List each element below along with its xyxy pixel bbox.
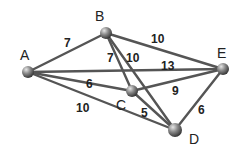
edge-weight-a-d: 10 xyxy=(76,101,90,115)
edge-a-e xyxy=(28,69,223,72)
node-e-sphere-icon xyxy=(217,63,229,75)
node-b-sphere-icon xyxy=(100,27,112,39)
node-c-sphere-icon xyxy=(126,85,138,97)
node-label-e: E xyxy=(217,45,226,61)
node-a-sphere-icon xyxy=(22,66,34,78)
labels-layer: 71361071010956ABCDE xyxy=(20,8,226,147)
node-label-d: D xyxy=(189,131,199,147)
edge-c-d xyxy=(132,91,175,130)
edges-layer xyxy=(28,33,223,130)
edge-weight-b-d: 10 xyxy=(126,51,140,65)
edge-weight-a-e: 13 xyxy=(161,59,175,73)
edge-weight-c-d: 5 xyxy=(141,106,148,120)
edge-weight-c-e: 9 xyxy=(172,84,179,98)
edge-weight-b-c: 7 xyxy=(107,51,114,65)
graph-diagram: 71361071010956ABCDE xyxy=(0,0,243,160)
edge-a-c xyxy=(28,72,132,91)
node-d-sphere-icon xyxy=(168,123,182,137)
node-label-c: C xyxy=(116,97,126,113)
edge-weight-a-c: 6 xyxy=(86,77,93,91)
edge-weight-b-e: 10 xyxy=(151,32,165,46)
edge-weight-a-b: 7 xyxy=(64,36,71,50)
node-label-a: A xyxy=(20,47,30,63)
node-label-b: B xyxy=(95,8,104,24)
edge-weight-d-e: 6 xyxy=(198,103,205,117)
